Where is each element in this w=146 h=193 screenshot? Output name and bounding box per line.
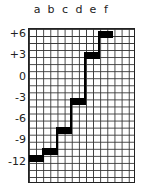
block-c <box>57 127 71 134</box>
row-label-0: 0 <box>0 71 26 83</box>
column-label-e: e <box>86 4 100 16</box>
column-label-b: b <box>44 4 58 16</box>
row-label-minus6: -6 <box>0 113 26 125</box>
column-label-a: a <box>30 4 44 16</box>
block-f <box>99 31 113 38</box>
row-label-minus12: -12 <box>0 156 26 168</box>
row-label-plus3: +3 <box>0 49 26 61</box>
block-d <box>71 98 85 105</box>
block-a <box>29 155 43 162</box>
column-label-c: c <box>58 4 72 16</box>
block-b <box>43 148 57 155</box>
block-e <box>85 52 99 59</box>
connector-a-b <box>42 148 44 162</box>
connector-e-f <box>98 31 100 59</box>
column-label-f: f <box>99 4 113 16</box>
connector-d-e <box>84 52 86 105</box>
column-label-d: d <box>72 4 86 16</box>
row-label-plus6: +6 <box>0 28 26 40</box>
row-label-minus3: -3 <box>0 92 26 104</box>
graph-grid <box>28 28 135 183</box>
row-label-minus9: -9 <box>0 134 26 146</box>
connector-b-c <box>56 127 58 155</box>
connector-c-d <box>70 98 72 134</box>
